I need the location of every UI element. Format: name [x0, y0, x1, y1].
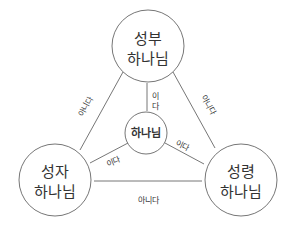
father-label-line2: 하나님: [127, 50, 169, 68]
edge-label-father-spirit: 아니다: [199, 93, 218, 117]
edge-label-spirit-god: 이다: [174, 138, 192, 153]
spirit-label-line1: 성령: [227, 163, 255, 181]
edge-label-son-god: 이다: [105, 154, 123, 169]
son-label-line2: 하나님: [34, 183, 76, 201]
edge-label-son-spirit: 아니다: [138, 195, 160, 205]
son-label-line1: 성자: [41, 163, 69, 181]
spirit-label-line2: 하나님: [220, 183, 262, 201]
trinity-diagram: 성부 하나님 성자 하나님 성령 하나님 하나님 아니다 아니다 아니다 이 다…: [0, 0, 290, 232]
god-label: 하나님: [131, 126, 161, 140]
edge-label-father-god-1: 이: [152, 91, 159, 101]
edge-label-father-god-2: 다: [152, 102, 160, 111]
father-label-line1: 성부: [134, 30, 162, 48]
edge-label-father-son: 아니다: [76, 94, 95, 118]
